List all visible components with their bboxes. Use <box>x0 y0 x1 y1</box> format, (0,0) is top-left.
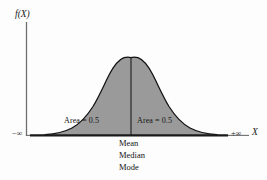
x-axis-label: X <box>252 128 258 138</box>
area-label-left: Area = 0.5 <box>64 116 99 125</box>
curve-fill-area <box>31 57 228 135</box>
x-axis-min-label: −∞ <box>12 130 22 138</box>
stat-label-mean: Mean <box>119 139 145 148</box>
normal-distribution-figure: f(X) −∞ +∞ X Area = 0.5 Area = 0.5 Mean … <box>0 0 267 180</box>
stat-label-median: Median <box>119 151 145 160</box>
area-label-right: Area = 0.5 <box>137 116 172 125</box>
y-axis-label: f(X) <box>15 10 30 20</box>
x-axis-max-label: +∞ <box>231 130 241 138</box>
stat-label-mode: Mode <box>119 163 145 172</box>
center-stat-labels: Mean Median Mode <box>119 139 145 172</box>
